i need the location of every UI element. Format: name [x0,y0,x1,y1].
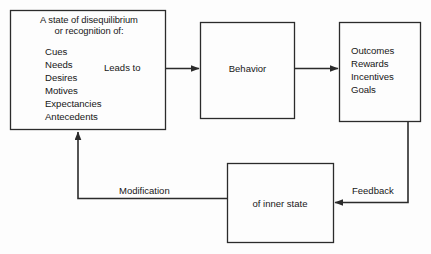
edge-label-feedback: Feedback [352,185,394,197]
edge-label-leads-to: Leads to [104,62,140,74]
edge-label-modification: Modification [119,185,170,197]
behavior-box-label: Behavior [200,63,295,75]
diagram-vector-layer [0,0,431,254]
diagram-canvas: A state of disequilibrium or recognition… [0,0,431,254]
state-of-disequilibrium-list: Cues Needs Desires Motives Expectancies … [45,45,101,123]
outcomes-box-list: Outcomes Rewards Incentives Goals [351,44,394,96]
inner-state-box-label: of inner state [227,198,333,210]
state-of-disequilibrium-heading: A state of disequilibrium or recognition… [14,14,164,37]
